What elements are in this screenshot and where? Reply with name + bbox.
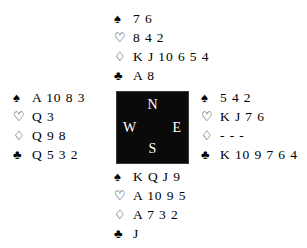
west-spades: A 10 8 3 bbox=[29, 88, 85, 107]
east-hearts: K J 7 6 bbox=[217, 107, 265, 126]
south-spade-row: ♠ K Q J 9 bbox=[114, 167, 186, 186]
north-clubs: A 8 bbox=[130, 66, 155, 85]
north-heart-row: ♡ 8 4 2 bbox=[114, 28, 209, 47]
spade-icon: ♠ bbox=[13, 88, 29, 107]
east-spade-row: ♠ 5 4 2 bbox=[201, 88, 298, 107]
west-heart-row: ♡ Q 3 bbox=[13, 107, 85, 126]
east-clubs: K 10 9 7 6 4 bbox=[217, 145, 298, 164]
north-diamonds: K J 10 6 5 4 bbox=[130, 47, 209, 66]
compass-label-south: S bbox=[117, 142, 188, 156]
compass-label-west: W bbox=[123, 121, 136, 135]
bridge-deal-diagram: ♠ 7 6 ♡ 8 4 2 ♢ K J 10 6 5 4 ♣ A 8 ♠ A 1… bbox=[0, 0, 307, 248]
diamond-icon: ♢ bbox=[114, 47, 130, 66]
east-club-row: ♣ K 10 9 7 6 4 bbox=[201, 145, 298, 164]
heart-icon: ♡ bbox=[114, 186, 130, 205]
club-icon: ♣ bbox=[201, 145, 217, 164]
north-club-row: ♣ A 8 bbox=[114, 66, 209, 85]
spade-icon: ♠ bbox=[114, 9, 130, 28]
west-spade-row: ♠ A 10 8 3 bbox=[13, 88, 85, 107]
diamond-icon: ♢ bbox=[13, 126, 29, 145]
south-diamonds: A 7 3 2 bbox=[130, 205, 179, 224]
compass-box: N W E S bbox=[117, 92, 188, 163]
compass-label-east: E bbox=[172, 121, 181, 135]
south-hearts: A 10 9 5 bbox=[130, 186, 186, 205]
south-diamond-row: ♢ A 7 3 2 bbox=[114, 205, 186, 224]
hand-east: ♠ 5 4 2 ♡ K J 7 6 ♢ - - - ♣ K 10 9 7 6 4 bbox=[201, 88, 298, 164]
hand-north: ♠ 7 6 ♡ 8 4 2 ♢ K J 10 6 5 4 ♣ A 8 bbox=[114, 9, 209, 85]
west-clubs: Q 5 3 2 bbox=[29, 145, 78, 164]
west-club-row: ♣ Q 5 3 2 bbox=[13, 145, 85, 164]
diamond-icon: ♢ bbox=[114, 205, 130, 224]
club-icon: ♣ bbox=[114, 224, 130, 243]
south-spades: K Q J 9 bbox=[130, 167, 181, 186]
spade-icon: ♠ bbox=[114, 167, 130, 186]
club-icon: ♣ bbox=[13, 145, 29, 164]
south-club-row: ♣ J bbox=[114, 224, 186, 243]
heart-icon: ♡ bbox=[13, 107, 29, 126]
north-diamond-row: ♢ K J 10 6 5 4 bbox=[114, 47, 209, 66]
south-clubs: J bbox=[130, 224, 139, 243]
west-diamond-row: ♢ Q 9 8 bbox=[13, 126, 85, 145]
south-heart-row: ♡ A 10 9 5 bbox=[114, 186, 186, 205]
hand-west: ♠ A 10 8 3 ♡ Q 3 ♢ Q 9 8 ♣ Q 5 3 2 bbox=[13, 88, 85, 164]
spade-icon: ♠ bbox=[201, 88, 217, 107]
club-icon: ♣ bbox=[114, 66, 130, 85]
north-spade-row: ♠ 7 6 bbox=[114, 9, 209, 28]
east-diamonds: - - - bbox=[217, 126, 245, 145]
east-spades: 5 4 2 bbox=[217, 88, 252, 107]
east-heart-row: ♡ K J 7 6 bbox=[201, 107, 298, 126]
heart-icon: ♡ bbox=[114, 28, 130, 47]
diamond-icon: ♢ bbox=[201, 126, 217, 145]
hand-south: ♠ K Q J 9 ♡ A 10 9 5 ♢ A 7 3 2 ♣ J bbox=[114, 167, 186, 243]
east-diamond-row: ♢ - - - bbox=[201, 126, 298, 145]
north-spades: 7 6 bbox=[130, 9, 153, 28]
west-hearts: Q 3 bbox=[29, 107, 55, 126]
north-hearts: 8 4 2 bbox=[130, 28, 165, 47]
west-diamonds: Q 9 8 bbox=[29, 126, 67, 145]
compass-label-north: N bbox=[117, 98, 188, 112]
heart-icon: ♡ bbox=[201, 107, 217, 126]
